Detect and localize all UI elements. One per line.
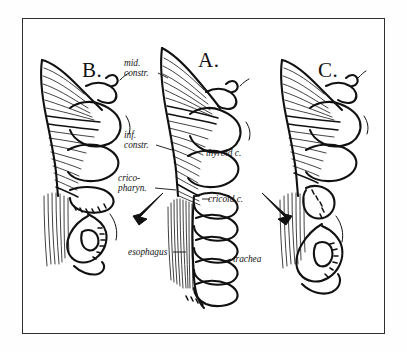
label-cricoid-cartilage: cricoid c. — [208, 194, 243, 205]
panel-c-drawing — [280, 60, 368, 294]
label-inf-constrictor: inf. constr. — [124, 130, 149, 150]
arrow-right — [262, 193, 292, 225]
label-mid-constrictor-line1: mid. — [124, 58, 149, 68]
arrow-left — [133, 193, 163, 225]
label-thyroid-cartilage: thyroid c. — [206, 148, 241, 159]
label-inf-constrictor-line2: constr. — [124, 140, 149, 150]
leader-crico-pharyn — [155, 188, 176, 190]
panel-b-drawing — [41, 60, 130, 275]
label-cricopharyngeus-line2: pharyn. — [118, 183, 147, 193]
leader-inf-constr — [156, 145, 172, 150]
panel-letter-a: A. — [198, 48, 219, 73]
panel-letter-c: C. — [318, 58, 338, 83]
panel-a-drawing — [161, 48, 250, 308]
label-mid-constrictor-line2: constr. — [124, 68, 149, 78]
label-trachea: trachea — [233, 254, 261, 265]
label-inf-constrictor-line1: inf. — [124, 130, 149, 140]
label-cricopharyngeus-line1: crico- — [118, 173, 147, 183]
label-esophagus: esophagus — [128, 247, 167, 258]
anatomical-figure: B. A. C. mid. constr. inf. constr. crico… — [0, 0, 407, 352]
panel-letter-b: B. — [82, 58, 102, 83]
label-cricopharyngeus: crico- pharyn. — [118, 173, 147, 193]
label-mid-constrictor: mid. constr. — [124, 58, 149, 78]
